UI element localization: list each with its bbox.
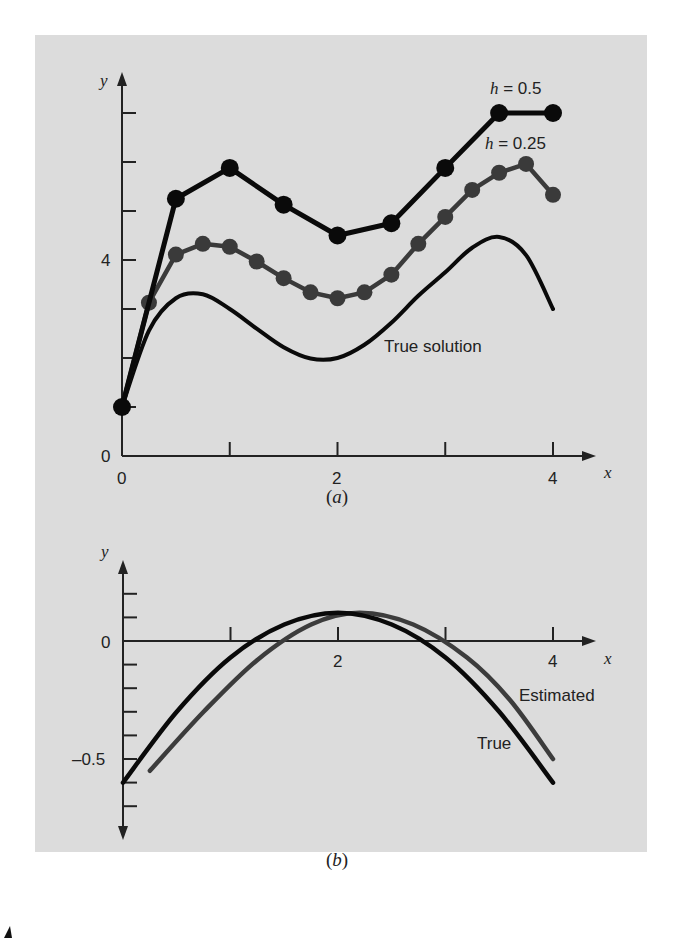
h05-marker [544, 104, 562, 122]
caption-letter: b [332, 849, 342, 870]
chart-b-axes [123, 570, 585, 830]
chart-b-y-arrow-up-icon [118, 560, 128, 574]
h025-marker [410, 236, 426, 252]
h-symbol: h [490, 79, 499, 98]
h025-marker [491, 165, 507, 181]
h05-marker [275, 196, 293, 214]
h05-marker [221, 159, 239, 177]
chart-a-tick-y4: 4 [101, 251, 110, 270]
h025-marker [276, 270, 292, 286]
h025-marker [303, 284, 319, 300]
chart-a-tick-x4: 4 [548, 469, 557, 488]
h025-marker [383, 267, 399, 283]
chart-a-label-h025: h = 0.25 [485, 134, 546, 153]
h025-marker [437, 209, 453, 225]
chart-b-x-axis-label: x [603, 649, 612, 668]
chart-a-label-h05: h = 0.5 [490, 79, 542, 98]
h025-marker [464, 182, 480, 198]
chart-a-y-arrow-icon [117, 72, 127, 86]
chart-b-y-axis-label: y [99, 542, 109, 561]
h05-marker [167, 190, 185, 208]
h025-marker [168, 247, 184, 263]
h025-marker [195, 236, 211, 252]
chart-b-label-true: True [477, 734, 511, 753]
h05-marker [382, 214, 400, 232]
h05-value: = 0.5 [499, 79, 542, 98]
chart-b-tick-y-neg05: –0.5 [72, 750, 105, 769]
chart-a-true-solution-curve [122, 237, 553, 407]
h025-value: = 0.25 [494, 134, 546, 153]
chart-a-y-axis-label: y [98, 71, 108, 90]
figure-svg: y x 0 2 4 0 4 h = 0.5 h = 0.25 True solu… [0, 0, 683, 938]
chart-a: y x 0 2 4 0 4 h = 0.5 h = 0.25 True solu… [98, 71, 612, 508]
chart-a-x-axis-label: x [603, 463, 612, 482]
chart-a-x-ticks [230, 442, 553, 456]
h025-marker [330, 290, 346, 306]
h05-marker [436, 159, 454, 177]
chart-b: y x 2 4 0 –0.5 Estimated True (b) [72, 542, 612, 871]
h-symbol: h [485, 134, 494, 153]
caption-paren-close: ) [342, 849, 348, 871]
caption-letter: a [332, 486, 342, 507]
page-corner-mark [4, 926, 12, 938]
chart-a-tick-x0: 0 [117, 469, 126, 488]
h05-marker [113, 398, 131, 416]
h025-marker [356, 284, 372, 300]
h025-marker [249, 253, 265, 269]
h025-marker [222, 239, 238, 255]
chart-a-label-true-solution: True solution [384, 337, 482, 356]
chart-b-label-estimated: Estimated [519, 686, 595, 705]
chart-b-y-arrow-down-icon [118, 826, 128, 840]
h025-marker [518, 156, 534, 172]
h025-marker [545, 187, 561, 203]
chart-a-h025-line [122, 164, 553, 407]
chart-a-h05-line [122, 113, 553, 407]
chart-b-tick-y0: 0 [101, 633, 110, 652]
chart-b-x-arrow-icon [582, 636, 596, 646]
chart-b-caption: (b) [326, 849, 348, 871]
chart-a-x-arrow-icon [582, 451, 596, 461]
chart-a-tick-y0: 0 [101, 447, 110, 466]
h05-marker [490, 104, 508, 122]
chart-a-caption: (a) [326, 486, 348, 508]
chart-b-tick-x2: 2 [333, 652, 342, 671]
h05-marker [329, 227, 347, 245]
caption-paren-close: ) [342, 486, 348, 508]
chart-b-tick-x4: 4 [548, 652, 557, 671]
